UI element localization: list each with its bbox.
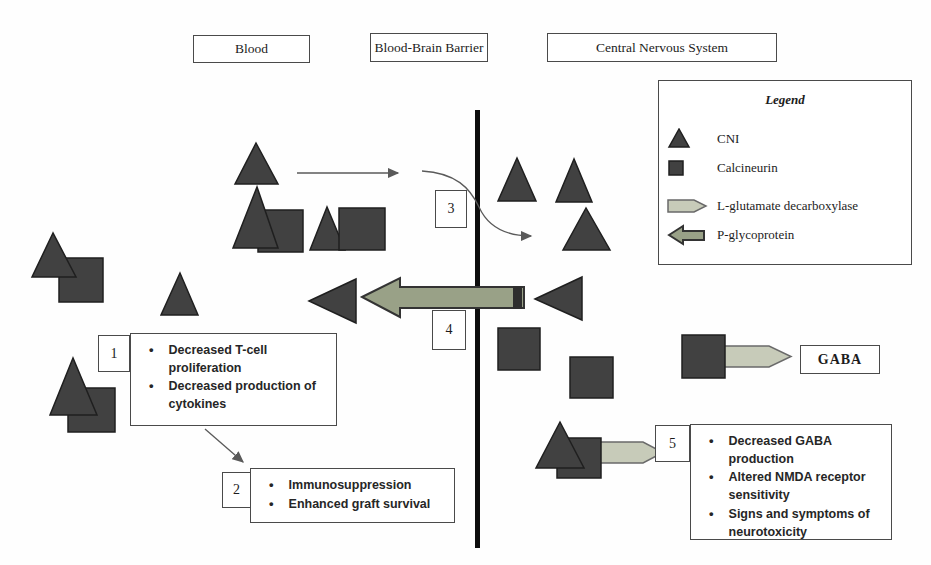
callout-2-list: Immunosuppression Enhanced graft surviva… [257,476,448,514]
callout-5-list: Decreased GABA production Altered NMDA r… [697,432,885,541]
callout-number-label: 4 [446,322,453,338]
cni-triangle [498,158,536,201]
calcineurin-square [498,328,540,370]
callout-1-number: 1 [98,335,130,372]
callout-2-box: Immunosuppression Enhanced graft surviva… [250,468,455,523]
callout-1-box: Decreased T-cell proliferation Decreased… [130,333,337,426]
callout-5-box: Decreased GABA production Altered NMDA r… [690,424,892,540]
calcineurin-square-icon [667,160,713,176]
legend-box: Legend CNI Calcineurin L-glutamate decar… [658,80,912,265]
cni-triangle-icon [667,128,713,149]
gaba-label: GABA [818,352,862,368]
callout-bullet: Altered NMDA receptor sensitivity [709,468,883,504]
callout-bullet: Decreased production of cytokines [149,377,328,413]
cni-triangle [161,273,198,315]
callout-5-number: 5 [655,425,690,462]
pgp-arrow-end-band [513,286,522,309]
cni-triangle [556,159,592,202]
calcineurin-square [570,357,613,398]
legend-label: CNI [717,131,739,147]
header-central-nervous-system: Central Nervous System [547,33,777,62]
cni-triangle-left [535,277,582,320]
callout-bullet: Enhanced graft survival [269,495,446,514]
callout-bullet: Immunosuppression [269,476,446,495]
calcineurin-square [339,208,385,250]
legend-label: P-glycoprotein [717,227,794,243]
callout-3-number: 3 [435,190,467,228]
lglut-decarboxylase-arrow [724,346,791,367]
callout1-to-callout2-arrow [205,429,243,462]
legend-item-lglutamate-decarboxylase: L-glutamate decarboxylase [667,191,911,220]
diagram-canvas: Blood Blood-Brain Barrier Central Nervou… [0,0,931,565]
cni-triangle [50,358,97,415]
callout-number-label: 1 [111,346,118,362]
legend-item-calcineurin: Calcineurin [667,153,911,182]
callout-number-label: 3 [448,201,455,217]
header-blood: Blood [193,35,310,63]
callout-bullet: Decreased T-cell proliferation [149,341,328,377]
callout-4-number: 4 [432,310,466,350]
left-block-arrow-icon [667,224,713,246]
gaba-box: GABA [800,345,880,374]
lglut-decarboxylase-arrow [598,442,663,463]
cni-triangle [235,143,278,184]
legend-rows: CNI Calcineurin L-glutamate decarboxylas… [659,108,911,249]
callout-2-number: 2 [222,472,251,508]
header-blood-label: Blood [235,41,268,57]
header-blood-brain-barrier: Blood-Brain Barrier [370,33,488,62]
right-block-arrow-icon [667,197,713,215]
callout-bullet: Signs and symptoms of neurotoxicity [709,505,883,541]
callout-number-label: 5 [669,436,676,452]
legend-label: Calcineurin [717,160,778,176]
legend-title: Legend [659,92,911,108]
callout-number-label: 2 [233,482,240,498]
legend-label: L-glutamate decarboxylase [717,198,858,214]
callout-1-list: Decreased T-cell proliferation Decreased… [137,341,330,414]
cni-triangle [32,233,76,277]
callout-bullet: Decreased GABA production [709,432,883,468]
cni-triangle [563,208,610,250]
header-cns-label: Central Nervous System [596,40,728,56]
cni-triangle-left [309,279,356,323]
calcineurin-square [682,335,725,378]
legend-item-pglycoprotein: P-glycoprotein [667,220,911,249]
header-barrier-label: Blood-Brain Barrier [374,40,483,56]
legend-item-cni: CNI [667,124,911,153]
